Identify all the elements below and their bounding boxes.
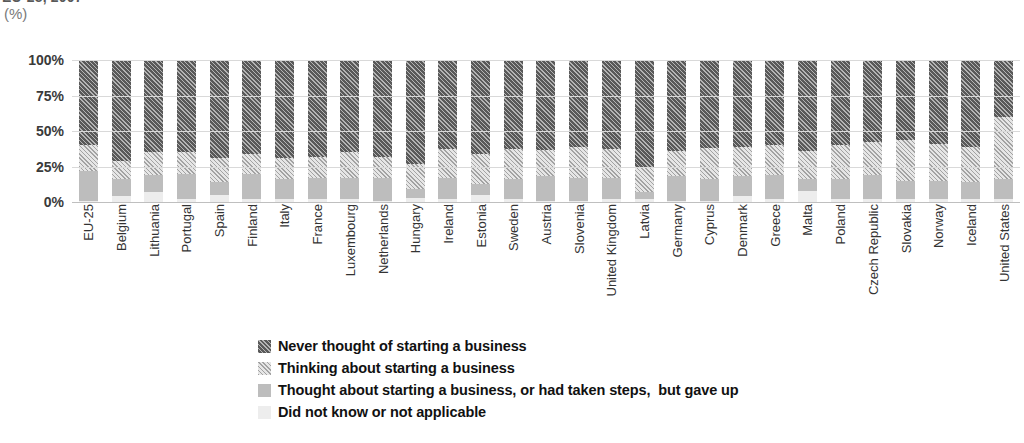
axis-unit-label: (%) xyxy=(4,5,27,22)
x-label-slot: Finland xyxy=(235,202,268,322)
bar-segment-thinking xyxy=(210,158,229,182)
x-label-slot: Italy xyxy=(268,202,301,322)
bar-segment-gaveup xyxy=(275,179,294,199)
gridline xyxy=(72,60,1020,61)
plot-area xyxy=(72,60,1020,202)
x-label-slot: Spain xyxy=(203,202,236,322)
legend-label: Thinking about starting a business xyxy=(278,360,515,376)
x-axis-label: Poland xyxy=(833,204,848,244)
bar-segment-never xyxy=(275,60,294,158)
bar-segment-thinking xyxy=(177,152,196,173)
bar-segment-never xyxy=(700,60,719,148)
y-tick-label: 75% xyxy=(36,88,64,104)
bar-segment-gaveup xyxy=(602,178,621,199)
x-axis-label: Hungary xyxy=(408,204,423,253)
x-axis-label: Ireland xyxy=(440,204,455,244)
bar-segment-dontknow xyxy=(471,195,490,202)
bar-segment-gaveup xyxy=(373,178,392,201)
x-label-slot: Czech Republic xyxy=(857,202,890,322)
bar-segment-thinking xyxy=(961,147,980,183)
bar-segment-thinking xyxy=(569,147,588,178)
bar-segment-gaveup xyxy=(406,189,425,198)
legend-label: Never thought of starting a business xyxy=(278,338,527,354)
bar-segment-thinking xyxy=(275,158,294,179)
bar-segment-thinking xyxy=(733,147,752,177)
bar-segment-never xyxy=(733,60,752,147)
x-label-slot: Denmark xyxy=(726,202,759,322)
legend-item-thinking[interactable]: Thinking about starting a business xyxy=(258,358,739,378)
x-axis-label: Greece xyxy=(767,204,782,247)
x-label-slot: Austria xyxy=(530,202,563,322)
x-axis-label: United Kingdom xyxy=(604,204,619,297)
bar-segment-gaveup xyxy=(79,171,98,201)
x-axis-label: Cyprus xyxy=(702,204,717,245)
gridline xyxy=(72,167,1020,168)
legend-item-dontknow[interactable]: Did not know or not applicable xyxy=(258,402,739,422)
bar-segment-thinking xyxy=(242,154,261,174)
bar-segment-thinking xyxy=(536,150,555,177)
legend-item-gaveup[interactable]: Thought about starting a business, or ha… xyxy=(258,380,739,400)
legend-item-never[interactable]: Never thought of starting a business xyxy=(258,336,739,356)
y-tick-label: 0% xyxy=(44,194,64,210)
bar-segment-gaveup xyxy=(308,178,327,199)
bar-segment-never xyxy=(635,60,654,167)
bar-segment-thinking xyxy=(112,161,131,179)
x-label-slot: Slovenia xyxy=(562,202,595,322)
x-label-slot: United Kingdom xyxy=(595,202,628,322)
x-axis-label: France xyxy=(310,204,325,244)
bar-segment-gaveup xyxy=(210,182,229,195)
bar-segment-gaveup xyxy=(112,179,131,196)
bar-segment-never xyxy=(536,60,555,149)
bar-segment-never xyxy=(961,60,980,147)
x-label-slot: Malta xyxy=(791,202,824,322)
bar-segment-thinking xyxy=(667,151,686,177)
x-label-slot: Portugal xyxy=(170,202,203,322)
bar-segment-never xyxy=(242,60,261,154)
x-axis-label: United States xyxy=(996,204,1011,282)
gridline xyxy=(72,131,1020,132)
bar-segment-gaveup xyxy=(863,175,882,199)
bar-segment-gaveup xyxy=(471,184,490,195)
bar-segment-never xyxy=(79,60,98,145)
chart-page: { "title_clipped": "EU-25, 2007", "unit_… xyxy=(0,0,1024,443)
x-axis-label: Malta xyxy=(800,204,815,236)
bar-segment-gaveup xyxy=(765,175,784,199)
bar-segment-dontknow xyxy=(210,195,229,202)
bar-segment-thinking xyxy=(406,164,425,190)
x-axis-label: Luxembourg xyxy=(342,204,357,276)
x-label-slot: Hungary xyxy=(399,202,432,322)
light-hatched-swatch xyxy=(258,362,271,375)
bar-segment-never xyxy=(504,60,523,149)
bar-segment-never xyxy=(798,60,817,151)
bar-segment-gaveup xyxy=(504,179,523,199)
x-axis-label: Lithuania xyxy=(146,204,161,257)
bar-segment-gaveup xyxy=(929,181,948,199)
bar-segment-never xyxy=(177,60,196,152)
medium-grey-swatch xyxy=(258,384,271,397)
bar-segment-never xyxy=(765,60,784,145)
x-axis-label: Spain xyxy=(212,204,227,237)
x-label-slot: Netherlands xyxy=(366,202,399,322)
bar-segment-gaveup xyxy=(144,175,163,192)
x-axis-label: Finland xyxy=(244,204,259,247)
bar-segment-never xyxy=(308,60,327,157)
x-axis-label: Sweden xyxy=(506,204,521,251)
x-axis-label: Latvia xyxy=(637,204,652,239)
light-grey-swatch xyxy=(258,406,271,419)
bar-segment-thinking xyxy=(471,154,490,184)
x-label-slot: Slovakia xyxy=(889,202,922,322)
bar-segment-never xyxy=(569,60,588,147)
x-label-slot: Iceland xyxy=(955,202,988,322)
x-axis-label: Portugal xyxy=(179,204,194,252)
bar-segment-gaveup xyxy=(896,181,915,199)
bar-segment-gaveup xyxy=(798,179,817,190)
bar-segment-never xyxy=(406,60,425,164)
bar-segment-thinking xyxy=(602,149,621,177)
x-axis-label: EU-25 xyxy=(81,204,96,241)
bar-segment-gaveup xyxy=(733,176,752,196)
x-axis-label: Iceland xyxy=(963,204,978,246)
bar-segment-gaveup xyxy=(700,179,719,200)
x-axis-label: Denmark xyxy=(735,204,750,257)
bar-segment-thinking xyxy=(994,117,1013,179)
y-axis: 0%25%50%75%100% xyxy=(0,52,72,202)
